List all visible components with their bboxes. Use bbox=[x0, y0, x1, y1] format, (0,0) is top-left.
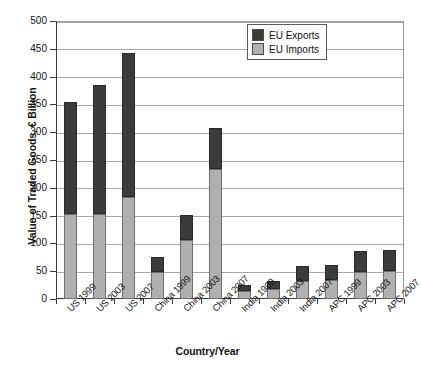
y-axis-label: 500 bbox=[0, 15, 47, 26]
y-axis-label: 150 bbox=[0, 210, 47, 221]
bar-segment-eu-imports[interactable] bbox=[122, 197, 135, 299]
y-axis-label: 0 bbox=[0, 293, 47, 304]
legend-item-eu-exports: EU Exports bbox=[252, 28, 320, 42]
bar-segment-eu-exports[interactable] bbox=[209, 128, 222, 169]
bar-segment-eu-exports[interactable] bbox=[93, 85, 106, 214]
x-axis-tick bbox=[375, 299, 376, 304]
y-axis-label: 450 bbox=[0, 43, 47, 54]
x-axis-tick bbox=[317, 299, 318, 304]
y-axis-label: 300 bbox=[0, 126, 47, 137]
legend-swatch-eu-imports bbox=[252, 43, 264, 55]
x-axis-tick bbox=[288, 299, 289, 304]
bar-group[interactable] bbox=[122, 53, 135, 299]
x-axis-tick bbox=[85, 299, 86, 304]
x-axis-tick bbox=[259, 299, 260, 304]
x-axis-tick bbox=[346, 299, 347, 304]
x-axis-tick bbox=[56, 299, 57, 304]
y-axis-label: 50 bbox=[0, 265, 47, 276]
bar-segment-eu-exports[interactable] bbox=[122, 53, 135, 197]
x-axis-tick bbox=[114, 299, 115, 304]
x-axis-tick bbox=[172, 299, 173, 304]
bar-segment-eu-exports[interactable] bbox=[64, 102, 77, 214]
bar-segment-eu-exports[interactable] bbox=[354, 251, 367, 273]
bar-group[interactable] bbox=[93, 85, 106, 299]
y-axis-label: 350 bbox=[0, 98, 47, 109]
x-axis-tick bbox=[404, 299, 405, 304]
legend-swatch-eu-exports bbox=[252, 29, 264, 41]
x-axis-tick bbox=[143, 299, 144, 304]
bar-group[interactable] bbox=[383, 250, 396, 299]
bar-segment-eu-exports[interactable] bbox=[383, 250, 396, 271]
y-axis-label: 250 bbox=[0, 154, 47, 165]
bar-segment-eu-imports[interactable] bbox=[64, 214, 77, 299]
bar-group[interactable] bbox=[64, 102, 77, 299]
bar-segment-eu-exports[interactable] bbox=[151, 257, 164, 273]
bar-segment-eu-exports[interactable] bbox=[180, 215, 193, 240]
legend-label-eu-exports: EU Exports bbox=[269, 30, 320, 41]
bar-group[interactable] bbox=[151, 257, 164, 299]
chart-legend: EU Exports EU Imports bbox=[247, 24, 327, 60]
bars-layer bbox=[56, 21, 404, 299]
x-axis-title: Country/Year bbox=[0, 345, 415, 357]
bar-group[interactable] bbox=[354, 251, 367, 299]
legend-label-eu-imports: EU Imports bbox=[269, 44, 319, 55]
bar-group[interactable] bbox=[209, 128, 222, 299]
x-axis-tick bbox=[230, 299, 231, 304]
legend-item-eu-imports: EU Imports bbox=[252, 42, 320, 56]
y-axis-label: 100 bbox=[0, 237, 47, 248]
x-axis-tick bbox=[201, 299, 202, 304]
y-axis-label: 400 bbox=[0, 71, 47, 82]
y-axis-label: 200 bbox=[0, 182, 47, 193]
